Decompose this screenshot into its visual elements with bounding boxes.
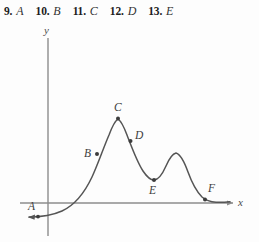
curve-left-arrowhead <box>28 215 35 220</box>
graph-figure: x y A B C D E F <box>0 22 259 242</box>
exercise-point-label: E <box>166 4 173 19</box>
exercise-item: 11. C <box>73 4 98 19</box>
point-label-b: B <box>84 147 91 159</box>
exercise-item: 13. E <box>148 4 173 19</box>
exercise-item: 12. D <box>110 4 136 19</box>
exercise-number: 13. <box>148 5 162 17</box>
point-marker-c <box>116 116 120 120</box>
point-label-c: C <box>114 101 122 113</box>
point-marker-d <box>129 139 133 143</box>
point-marker-b <box>95 152 99 156</box>
point-marker-f <box>203 198 207 202</box>
exercise-point-label: A <box>16 4 23 19</box>
y-axis-label: y <box>43 24 49 36</box>
exercise-number: 10. <box>36 5 50 17</box>
point-marker-e <box>152 178 156 182</box>
exercise-item: 9. A <box>4 4 24 19</box>
x-axis-label: x <box>237 196 243 208</box>
exercise-item: 10. B <box>36 4 61 19</box>
point-label-a: A <box>27 200 36 212</box>
figure-page: 9. A 10. B 11. C 12. D 13. E x <box>0 0 259 242</box>
point-marker-a <box>36 215 40 219</box>
exercise-number: 11. <box>73 5 86 17</box>
exercise-number-row: 9. A 10. B 11. C 12. D 13. E <box>0 0 259 22</box>
point-label-e: E <box>148 184 156 196</box>
point-label-d: D <box>134 129 144 141</box>
exercise-point-label: C <box>90 4 98 19</box>
exercise-point-label: D <box>128 4 137 19</box>
exercise-point-label: B <box>53 4 60 19</box>
exercise-number: 12. <box>110 5 124 17</box>
exercise-number: 9. <box>4 5 12 17</box>
point-label-f: F <box>207 182 216 194</box>
